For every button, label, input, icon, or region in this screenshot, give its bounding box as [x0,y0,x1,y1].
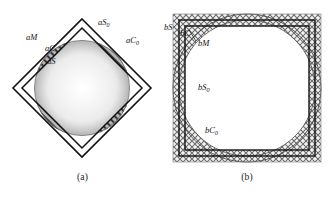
caption-b: (b) [165,172,329,182]
label-bC0-sub: 0 [215,130,218,136]
panel-a-svg [0,0,165,170]
panel-a-diamond-diagram: aM aC aS aS0 aC0 (a) [0,0,165,200]
label-bC0-base: bC [205,125,215,135]
figure-container: aM aC aS aS0 aC0 (a) [0,0,329,200]
label-bS: bS [164,23,173,32]
panel-b-square-diagram: bS bC bM bS0 bC0 (b) [165,0,329,200]
label-bM: bM [198,39,209,48]
label-aS0-sub: 0 [107,22,110,28]
caption-a: (a) [0,172,165,182]
label-aC: aC [45,44,55,53]
label-aC0-base: aC [126,35,136,45]
panel-b-svg [165,0,329,170]
label-aS0: aS0 [98,18,110,27]
label-bC0: bC0 [205,126,218,135]
label-bS0-base: bS [198,82,207,92]
label-bC: bC [180,29,190,38]
label-aS: aS [47,57,56,66]
label-aM: aM [26,33,37,42]
label-aC0-sub: 0 [136,40,139,46]
label-aC0: aC0 [126,36,139,45]
label-bS0: bS0 [198,83,210,92]
label-aS0-base: aS [98,17,107,27]
label-bS0-sub: 0 [207,87,210,93]
